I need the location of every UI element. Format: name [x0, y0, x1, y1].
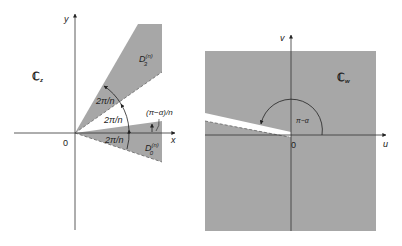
v-axis-label: v	[280, 33, 285, 43]
y-axis-label: y	[63, 14, 69, 24]
z-plane-panel: ℂz y x 0 D(n)3 D(n)0 2π/n 2π/n 2π/n (π−α…	[14, 14, 176, 230]
u-axis-label: u	[383, 139, 388, 149]
angle-label-lower: 2π/n	[104, 135, 124, 145]
w-plane-panel: ℂw v u 0 π−α	[205, 33, 388, 231]
origin-label-w: 0	[291, 140, 296, 150]
x-axis-label: x	[170, 135, 176, 145]
conformal-map-figure: ℂz y x 0 D(n)3 D(n)0 2π/n 2π/n 2π/n (π−α…	[0, 0, 402, 246]
origin-label-z: 0	[63, 138, 68, 148]
angle-label-middle: 2π/n	[103, 115, 123, 125]
angle-label-w: π−α	[296, 117, 310, 124]
angle-label-upper: 2π/n	[95, 96, 115, 106]
z-plane-label: ℂz	[32, 70, 43, 83]
small-angle-label: (π−α)/n	[146, 108, 173, 117]
